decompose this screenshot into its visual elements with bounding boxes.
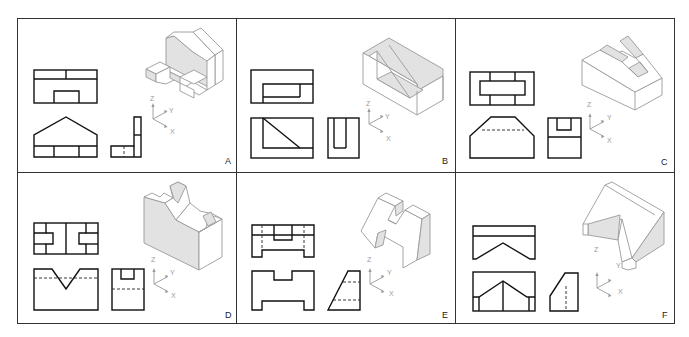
panel-a: Z Y X A bbox=[34, 28, 231, 166]
front-view bbox=[34, 269, 98, 310]
side-view bbox=[550, 273, 578, 311]
panel-f: Z Y X F bbox=[473, 182, 668, 320]
axis-z-label: Z bbox=[367, 256, 372, 263]
axis-indicator: Z Y X bbox=[366, 100, 391, 142]
axis-y-label: Y bbox=[616, 262, 621, 269]
front-view bbox=[252, 271, 314, 310]
panel-label-d: D bbox=[225, 310, 232, 320]
axis-z-label: Z bbox=[587, 101, 592, 108]
panel-label-a: A bbox=[225, 156, 231, 166]
axis-x-label: X bbox=[618, 288, 623, 295]
top-view bbox=[34, 223, 98, 254]
front-view bbox=[251, 118, 313, 158]
axis-z-label: Z bbox=[151, 256, 156, 263]
front-view bbox=[473, 272, 535, 311]
axis-y-label: Y bbox=[170, 269, 175, 276]
panel-e: Z Y X E bbox=[252, 193, 448, 320]
top-view bbox=[251, 70, 313, 103]
axis-x-label: X bbox=[171, 292, 176, 299]
side-view bbox=[328, 118, 359, 158]
panel-label-c: C bbox=[661, 157, 668, 167]
panel-c: Z Y X C bbox=[470, 36, 668, 167]
axis-indicator: Z Y X bbox=[151, 256, 176, 299]
side-view bbox=[548, 118, 581, 158]
axis-z-label: Z bbox=[150, 95, 155, 102]
top-view bbox=[34, 70, 97, 103]
axis-z-label: Z bbox=[366, 100, 371, 107]
side-view bbox=[328, 271, 360, 310]
axis-indicator: Z Y X bbox=[594, 246, 623, 297]
isometric-view bbox=[363, 38, 443, 115]
side-view bbox=[111, 117, 141, 157]
front-view bbox=[34, 117, 97, 157]
axis-indicator: Z Y X bbox=[150, 95, 175, 135]
panel-d: Z Y X D bbox=[34, 182, 232, 320]
multiview-figure: Z Y X A bbox=[0, 0, 689, 337]
axis-y-label: Y bbox=[169, 107, 174, 114]
side-view bbox=[112, 269, 144, 310]
panel-b: Z Y X B bbox=[251, 38, 448, 166]
top-view bbox=[252, 225, 314, 257]
isometric-view bbox=[582, 36, 662, 110]
isometric-view bbox=[361, 193, 430, 268]
isometric-view bbox=[144, 182, 222, 270]
axis-x-label: X bbox=[170, 128, 175, 135]
top-view bbox=[470, 72, 534, 105]
axis-x-label: X bbox=[386, 135, 391, 142]
panel-label-e: E bbox=[442, 310, 448, 320]
axis-y-label: Y bbox=[385, 113, 390, 120]
axis-indicator: Z Y X bbox=[367, 256, 394, 297]
figure-frame bbox=[18, 19, 675, 324]
axis-y-label: Y bbox=[387, 269, 392, 276]
axis-x-label: X bbox=[607, 137, 612, 144]
top-view bbox=[473, 226, 535, 259]
axis-x-label: X bbox=[389, 290, 394, 297]
axis-z-label: Z bbox=[594, 246, 599, 253]
front-view bbox=[470, 117, 534, 158]
isometric-view bbox=[583, 182, 664, 270]
axis-indicator: Z Y X bbox=[587, 101, 612, 144]
axis-y-label: Y bbox=[607, 114, 612, 121]
isometric-view bbox=[146, 28, 223, 98]
panel-label-b: B bbox=[442, 156, 448, 166]
panel-label-f: F bbox=[662, 310, 668, 320]
